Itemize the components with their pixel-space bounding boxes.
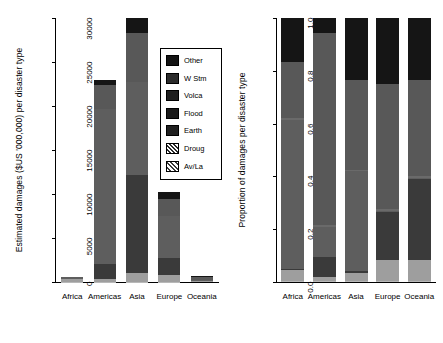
bar-segment-avla [408, 281, 431, 282]
left-x-axis-line [55, 282, 219, 283]
legend-swatch-wstm [166, 73, 179, 84]
bar-segment-avla [313, 281, 336, 282]
bar-stack[interactable] [408, 18, 431, 282]
bar-segment-earth [313, 257, 336, 277]
bar-stack[interactable] [94, 80, 116, 282]
legend-swatch-earth [166, 125, 179, 136]
legend-swatch-volca [166, 90, 179, 101]
legend-item[interactable]: Droug [166, 143, 204, 154]
bar-segment-other [281, 18, 304, 62]
legend-label: Droug [184, 144, 204, 153]
bar-segment-droug [126, 273, 148, 281]
bar-segment-earth [126, 175, 148, 274]
bar-stack[interactable] [191, 276, 213, 282]
legend: OtherW StmVolcaFloodEarthDrougAv/La [160, 48, 222, 180]
legend-label: Flood [184, 109, 203, 118]
x-axis-label: Oceania [393, 292, 443, 301]
legend-swatch-droug [166, 143, 179, 154]
bar-segment-other [313, 18, 336, 33]
bar-segment-earth [94, 264, 116, 279]
left-y-axis-title: Estimated damages ($US '000,000) per dis… [14, 18, 24, 282]
bar-segment-wstm [126, 33, 148, 82]
bar-segment-flood [345, 171, 368, 271]
bar-segment-other [376, 18, 399, 84]
bar-segment-wstm [313, 33, 336, 226]
bar-segment-flood [313, 227, 336, 257]
legend-label: Av/La [184, 162, 203, 171]
legend-label: Other [184, 56, 203, 65]
bar-stack[interactable] [158, 192, 180, 282]
legend-label: Earth [184, 126, 202, 135]
legend-swatch-avla [166, 161, 179, 172]
bar-segment-flood [94, 109, 116, 264]
bar-segment-flood [281, 120, 304, 269]
bar-segment-avla [281, 281, 304, 282]
bar-segment-droug [376, 260, 399, 281]
bar-stack[interactable] [126, 18, 148, 282]
bar-segment-droug [408, 260, 431, 281]
bar-segment-wstm [376, 84, 399, 209]
bar-stack[interactable] [61, 277, 83, 282]
bar-segment-droug [345, 273, 368, 281]
x-axis-label: Oceania [176, 292, 228, 301]
bar-segment-other [408, 18, 431, 80]
right-y-axis-title: Proportion of damages per disaster type [237, 18, 247, 282]
bar-segment-wstm [408, 80, 431, 176]
legend-item[interactable]: W Stm [166, 73, 207, 84]
bar-stack[interactable] [345, 18, 368, 282]
right-chart-panel: Proportion of damages per disaster type … [225, 0, 443, 343]
legend-label: Volca [184, 91, 202, 100]
legend-item[interactable]: Earth [166, 125, 202, 136]
bar-segment-earth [158, 258, 180, 275]
left-chart-panel: Estimated damages ($US '000,000) per dis… [0, 0, 225, 343]
y-tick-label: 0.0 [306, 282, 315, 322]
legend-label: W Stm [184, 74, 207, 83]
legend-item[interactable]: Other [166, 55, 203, 66]
y-tick-label: 0 [85, 282, 94, 322]
legend-item[interactable]: Flood [166, 108, 203, 119]
right-plot-area [277, 18, 435, 282]
bar-segment-other [345, 18, 368, 80]
right-x-axis-line [276, 282, 436, 283]
legend-swatch-flood [166, 108, 179, 119]
bar-segment-droug [281, 270, 304, 281]
bar-segment-other [126, 18, 148, 33]
legend-swatch-other [166, 55, 179, 66]
bar-segment-earth [376, 212, 399, 260]
bar-stack[interactable] [376, 18, 399, 282]
bar-segment-wstm [345, 80, 368, 170]
legend-item[interactable]: Av/La [166, 161, 203, 172]
bar-segment-flood [158, 216, 180, 257]
bar-stack[interactable] [281, 18, 304, 282]
bar-segment-wstm [158, 199, 180, 217]
bar-segment-avla [376, 281, 399, 282]
legend-item[interactable]: Volca [166, 90, 202, 101]
bar-segment-earth [408, 179, 431, 260]
bar-stack[interactable] [313, 18, 336, 282]
bar-segment-wstm [94, 85, 116, 110]
bar-segment-wstm [281, 62, 304, 119]
bar-segment-droug [158, 275, 180, 282]
bar-segment-flood [126, 82, 148, 174]
bar-segment-avla [345, 281, 368, 282]
